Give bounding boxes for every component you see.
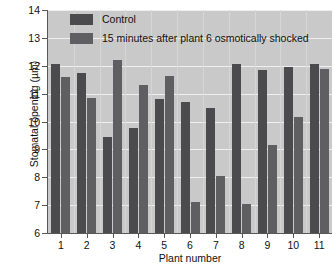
x-axis-title: Plant number [48,252,332,264]
bar-shocked-plant-6 [191,202,200,233]
bar-control-plant-11 [310,64,319,233]
x-axis-tick-label: 11 [309,240,329,251]
x-axis-tick [190,233,191,238]
y-axis-tick [42,149,48,150]
bar-control-plant-1 [51,64,60,233]
legend: Control 15 minutes after plant 6 osmotic… [70,12,309,50]
x-axis-tick-label: 7 [206,240,226,251]
bar-shocked-plant-2 [87,98,96,233]
bar-control-plant-7 [206,108,215,233]
legend-item-shocked: 15 minutes after plant 6 osmotically sho… [70,31,309,46]
y-axis-tick [42,177,48,178]
x-axis-tick-label: 1 [51,240,71,251]
y-axis-tick [42,233,48,234]
x-axis-tick [216,233,217,238]
chart-root: 67891011121314 1234567891011 Stomatal op… [0,0,334,268]
bar-control-plant-10 [284,67,293,233]
legend-label-shocked: 15 minutes after plant 6 osmotically sho… [102,33,309,44]
legend-label-control: Control [102,14,136,25]
legend-swatch-shocked-icon [70,33,93,44]
bar-control-plant-5 [155,99,164,233]
bar-shocked-plant-11 [320,69,329,233]
bar-shocked-plant-1 [61,77,70,233]
x-axis-tick [164,233,165,238]
bar-shocked-plant-4 [139,85,148,233]
x-axis-tick-label: 3 [103,240,123,251]
x-axis-tick [319,233,320,238]
legend-item-control: Control [70,12,309,27]
y-axis-tick [42,122,48,123]
bar-shocked-plant-9 [268,145,277,233]
bar-shocked-plant-8 [242,204,251,233]
x-axis-tick-label: 9 [257,240,277,251]
x-axis-tick-label: 6 [180,240,200,251]
y-axis-tick [42,10,48,11]
y-axis-tick [42,66,48,67]
y-axis-title: Stomatal opening (µm) [28,14,40,214]
x-axis-tick [61,233,62,238]
gridline [48,10,332,11]
x-axis-tick-label: 2 [77,240,97,251]
x-axis-tick [242,233,243,238]
bar-control-plant-6 [181,102,190,233]
bar-control-plant-2 [77,73,86,233]
x-axis-tick-label: 10 [283,240,303,251]
bar-shocked-plant-5 [165,76,174,233]
bar-control-plant-3 [103,137,112,233]
x-axis-tick [293,233,294,238]
y-axis-tick [42,38,48,39]
bar-control-plant-8 [232,64,241,233]
bar-control-plant-4 [129,128,138,233]
x-axis-tick [113,233,114,238]
y-axis-tick [42,94,48,95]
x-axis-tick [267,233,268,238]
y-axis-tick-label: 6 [20,228,40,239]
bar-shocked-plant-7 [216,176,225,233]
bar-shocked-plant-3 [113,60,122,233]
legend-swatch-control-icon [70,14,93,25]
x-axis-tick-label: 8 [232,240,252,251]
x-axis-tick [138,233,139,238]
bar-control-plant-9 [258,70,267,233]
bar-shocked-plant-10 [294,117,303,233]
x-axis-tick-label: 5 [154,240,174,251]
x-axis-tick-label: 4 [128,240,148,251]
x-axis-tick [87,233,88,238]
y-axis-tick [42,205,48,206]
